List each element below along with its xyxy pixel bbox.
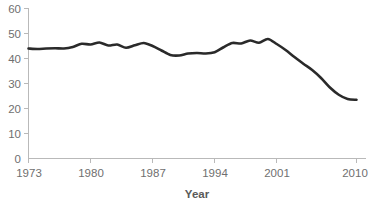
x-axis-labels: 1973 1980 1987 1994 2001 2010 bbox=[16, 167, 368, 179]
x-tick-label-1994: 1994 bbox=[202, 167, 228, 179]
y-tick-label-10: 10 bbox=[8, 128, 21, 140]
x-tick-label-2001: 2001 bbox=[264, 167, 290, 179]
data-line-series-1 bbox=[29, 39, 357, 100]
y-axis-labels: 60 50 40 30 20 10 0 bbox=[8, 3, 21, 165]
y-tick-label-30: 30 bbox=[8, 78, 21, 90]
x-axis-title: Year bbox=[185, 188, 210, 200]
y-tick-label-50: 50 bbox=[8, 28, 21, 40]
y-axis-ticks bbox=[24, 9, 29, 134]
x-tick-label-1973: 1973 bbox=[16, 167, 42, 179]
y-tick-label-0: 0 bbox=[15, 153, 21, 165]
x-tick-label-1987: 1987 bbox=[140, 167, 166, 179]
x-tick-label-2010: 2010 bbox=[342, 167, 368, 179]
line-chart-figure: 60 50 40 30 20 10 0 1973 1980 1987 1994 … bbox=[0, 0, 373, 210]
y-tick-label-60: 60 bbox=[8, 3, 21, 15]
x-tick-label-1980: 1980 bbox=[78, 167, 104, 179]
chart-container: 60 50 40 30 20 10 0 1973 1980 1987 1994 … bbox=[0, 0, 373, 210]
x-axis-ticks bbox=[29, 159, 357, 164]
y-tick-label-20: 20 bbox=[8, 103, 21, 115]
y-tick-label-40: 40 bbox=[8, 53, 21, 65]
